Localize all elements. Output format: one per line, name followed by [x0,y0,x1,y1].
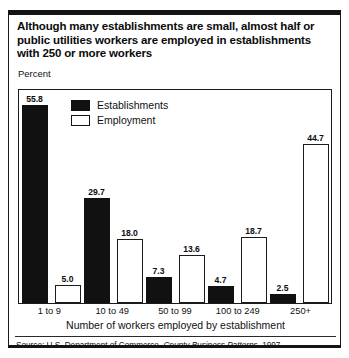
bar-rect [208,286,234,303]
x-axis-tick-labels: 1 to 9 10 to 49 50 to 99 100 to 249 250+ [18,306,332,316]
x-axis-title: Number of workers employed by establishm… [9,319,341,331]
bar-rect [303,144,329,303]
source-publication: County Business Patterns [163,341,257,348]
bar-value-label: 4.7 [215,276,227,285]
bar-value-label: 44.7 [307,134,324,143]
bar-establishments-1to9: 55.8 [22,95,48,303]
bar-group: 2.5 44.7 [268,91,330,303]
bar-rect [270,294,296,303]
legend-item-employment: Employment [71,115,168,126]
source-suffix: , 1997 [258,341,281,348]
bar-value-label: 13.6 [183,245,200,254]
x-tick-label: 10 to 49 [81,306,144,316]
x-tick-label: 50 to 99 [144,306,207,316]
legend-swatch-employment-icon [71,115,90,126]
bar-rect [84,198,110,303]
bar-value-label: 18.0 [121,229,138,238]
legend-label-establishments: Establishments [97,100,168,111]
x-tick-label: 1 to 9 [18,306,81,316]
bar-value-label: 29.7 [88,188,105,197]
bar-value-label: 2.5 [277,284,289,293]
y-axis-label: Percent [18,68,340,79]
plot-frame: Establishments Employment 55.8 5.0 [18,89,332,304]
source-note: Source: U.S. Department of Commerce, Cou… [16,341,280,348]
bar-establishments-10to49: 29.7 [84,188,110,303]
bar-establishments-50to99: 7.3 [146,267,172,303]
figure-container: Although many establishments are small, … [8,10,341,348]
bar-value-label: 18.7 [245,227,262,236]
bar-rect [55,285,81,303]
legend-item-establishments: Establishments [71,100,168,111]
bar-employment-250plus: 44.7 [303,134,329,303]
plot-area: 55.8 5.0 29.7 18.0 [20,91,330,303]
bar-employment-10to49: 18.0 [117,229,143,303]
legend-label-employment: Employment [97,115,155,126]
bar-value-label: 55.8 [26,95,43,104]
bar-establishments-250plus: 2.5 [270,284,296,303]
legend-swatch-establishments-icon [71,100,90,111]
bar-employment-1to9: 5.0 [55,275,81,303]
bar-rect [22,105,48,303]
bar-employment-50to99: 13.6 [179,245,205,303]
bar-rect [179,255,205,303]
source-prefix: Source: U.S. Department of Commerce, [16,341,161,348]
bar-value-label: 5.0 [62,275,74,284]
bar-rect [146,277,172,303]
bar-rect [117,239,143,303]
chart-legend: Establishments Employment [71,100,168,130]
x-tick-label: 100 to 249 [206,306,269,316]
bar-rect [241,237,267,303]
source-divider [15,336,336,337]
bar-employment-100to249: 18.7 [241,227,267,303]
bar-group: 4.7 18.7 [206,91,268,303]
x-tick-label: 250+ [269,306,332,316]
chart-title: Although many establishments are small, … [17,20,332,61]
bar-value-label: 7.3 [153,267,165,276]
bar-establishments-100to249: 4.7 [208,276,234,303]
